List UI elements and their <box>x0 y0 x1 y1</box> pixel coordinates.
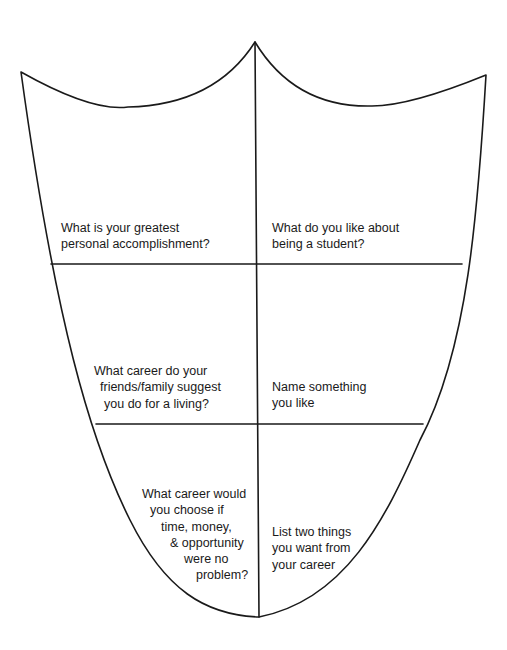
prompt-like-being-student: What do you like about being a student? <box>272 220 399 253</box>
prompt-line: you want from <box>272 540 351 556</box>
prompt-line: & opportunity <box>142 535 248 551</box>
prompt-line: you do for a living? <box>94 396 221 412</box>
prompt-line: your career <box>272 557 351 573</box>
prompt-line: you like <box>272 395 367 411</box>
shield-outline <box>0 0 507 650</box>
prompt-line: time, money, <box>142 519 248 535</box>
prompt-line: List two things <box>272 524 351 540</box>
prompt-line: What career do your <box>94 363 221 379</box>
prompt-want-from-career: List two things you want from your caree… <box>272 524 351 573</box>
vertical-divider <box>255 42 259 617</box>
prompt-line: personal accomplishment? <box>61 236 210 252</box>
prompt-line: problem? <box>142 567 248 583</box>
prompt-line: What is your greatest <box>61 220 210 236</box>
prompt-line: What do you like about <box>272 220 399 236</box>
prompt-line: friends/family suggest <box>94 379 221 395</box>
prompt-line: you choose if <box>142 502 248 518</box>
prompt-line: What career would <box>142 486 248 502</box>
prompt-name-something-you-like: Name something you like <box>272 379 367 412</box>
prompt-suggested-career: What career do your friends/family sugge… <box>94 363 221 412</box>
prompt-line: Name something <box>272 379 367 395</box>
prompt-dream-career: What career would you choose if time, mo… <box>142 486 248 584</box>
prompt-greatest-accomplishment: What is your greatest personal accomplis… <box>61 220 210 253</box>
prompt-line: were no <box>142 551 248 567</box>
shield-border <box>21 42 486 617</box>
prompt-line: being a student? <box>272 236 399 252</box>
